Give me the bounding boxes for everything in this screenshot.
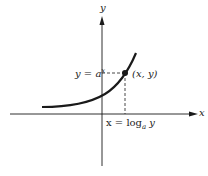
- diagram: y x y = ax (x, y) x = loga y: [0, 0, 208, 176]
- point-label: (x, y): [132, 69, 157, 79]
- x-axis-arrow-icon: [189, 112, 198, 117]
- curve-equation-exponent: x: [101, 67, 105, 75]
- curve-equation-text: y = a: [75, 68, 101, 79]
- x-axis-label: x: [199, 108, 205, 118]
- exponential-curve: [42, 53, 136, 107]
- graph-svg: [0, 0, 208, 176]
- log-equation-prefix: x = log: [106, 117, 142, 128]
- y-axis-arrow-icon: [100, 16, 105, 25]
- y-axis-label: y: [100, 3, 106, 13]
- curve-equation-label: y = ax: [75, 68, 105, 79]
- point-marker: [122, 70, 128, 76]
- log-equation-suffix: y: [146, 117, 155, 128]
- log-equation-label: x = loga y: [106, 118, 155, 131]
